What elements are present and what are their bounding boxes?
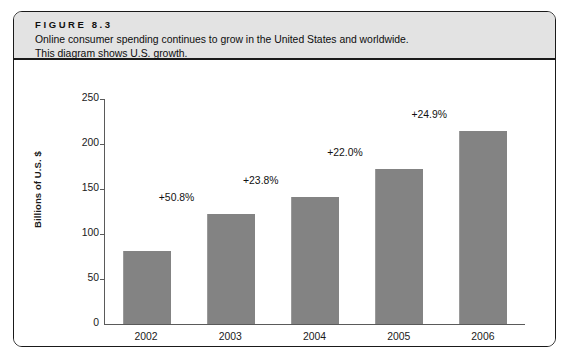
y-tick-label: 50: [66, 272, 99, 283]
bar-2005: [375, 169, 423, 324]
x-axis-line: [104, 324, 525, 325]
y-tick-mark: [100, 144, 104, 145]
growth-label-2006: +24.9%: [411, 109, 447, 120]
growth-label-2005: +22.0%: [327, 147, 363, 158]
x-tick-label: 2002: [116, 331, 176, 342]
y-tick-label: 150: [66, 182, 99, 193]
y-tick-mark: [100, 189, 104, 190]
growth-label-2003: +50.8%: [159, 192, 195, 203]
x-tick-label: 2003: [200, 331, 260, 342]
bar-2002: [123, 251, 171, 324]
chart-plot-area: Billions of U.S. $ 050100150200250 +50.8…: [14, 60, 555, 346]
y-tick-mark: [100, 234, 104, 235]
y-tick-label: 200: [66, 137, 99, 148]
growth-label-2004: +23.8%: [243, 175, 279, 186]
y-axis-title: Billions of U.S. $: [32, 130, 43, 250]
bar-2006: [459, 131, 507, 325]
figure-header: FIGURE 8.3 Online consumer spending cont…: [14, 12, 555, 60]
figure-container: FIGURE 8.3 Online consumer spending cont…: [13, 11, 556, 347]
y-tick-label: 100: [66, 227, 99, 238]
figure-number: FIGURE 8.3: [35, 19, 555, 31]
y-tick-mark: [100, 99, 104, 100]
x-tick-label: 2006: [453, 331, 513, 342]
y-tick-mark: [100, 279, 104, 280]
x-tick-label: 2005: [369, 331, 429, 342]
bar-2003: [207, 214, 255, 324]
y-tick-label: 0: [66, 317, 99, 328]
bar-2004: [291, 197, 339, 324]
x-tick-label: 2004: [285, 331, 345, 342]
y-axis-line: [104, 99, 105, 325]
figure-caption: Online consumer spending continues to gr…: [35, 33, 555, 61]
y-tick-label: 250: [66, 92, 99, 103]
